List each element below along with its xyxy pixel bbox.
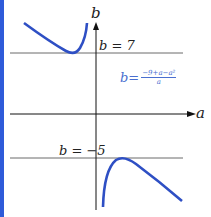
asymptote-label-minus5: b = −5 <box>59 143 106 158</box>
right-branch-curve <box>103 158 182 207</box>
formula-denominator: a <box>157 78 161 86</box>
y-axis-label: b <box>91 4 101 22</box>
asymptote-label-7: b = 7 <box>99 38 135 53</box>
formula-numerator: −9+a−a² <box>141 69 176 78</box>
formula-lhs: b= <box>120 70 139 85</box>
x-axis-label: a <box>196 104 205 122</box>
x-axis-arrow-icon <box>187 111 196 117</box>
left-branch-curve <box>24 23 87 53</box>
curve-formula: b= −9+a−a² a <box>120 69 176 86</box>
y-axis-arrow-icon <box>93 22 99 30</box>
graph <box>0 0 211 217</box>
